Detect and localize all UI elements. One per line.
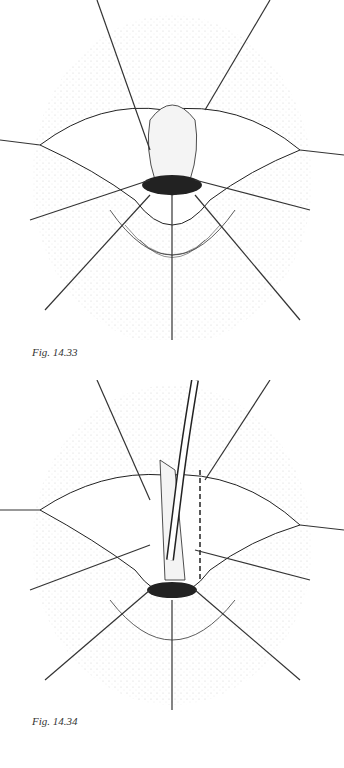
figure-14-34: Fig. 14.34 [0, 380, 344, 768]
figure-caption: Fig. 14.33 [32, 346, 78, 358]
figure-14-33: Fig. 14.33 [0, 0, 344, 350]
illustration-fig-14-33 [0, 0, 344, 340]
figure-caption: Fig. 14.34 [32, 715, 78, 727]
illustration-fig-14-34 [0, 380, 344, 710]
